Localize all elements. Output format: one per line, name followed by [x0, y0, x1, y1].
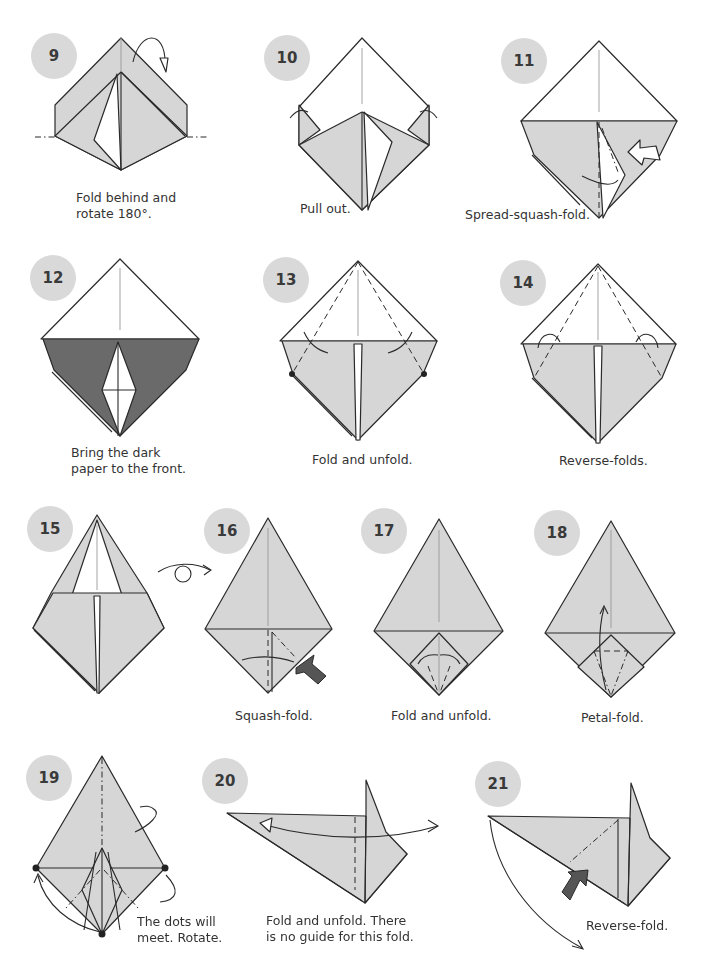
step-16: 16 Squash-fold. — [180, 500, 350, 730]
step-caption: Petal-fold. — [581, 710, 644, 726]
step-caption: Bring the dark paper to the front. — [71, 445, 186, 477]
step-caption: Fold behind and rotate 180°. — [76, 190, 176, 222]
step-20: 20 Fold and unfold. There is no guide fo… — [210, 740, 470, 973]
step-18-diagram — [520, 500, 704, 730]
step-caption: Fold and unfold. There is no guide for t… — [266, 913, 414, 945]
step-10-diagram — [240, 0, 470, 230]
step-11: 11 Spread-squash-fold. — [460, 0, 704, 230]
step-21: 21 Reverse-fold. — [470, 740, 704, 973]
step-caption: Fold and unfold. — [312, 452, 413, 468]
step-15: 15 — [0, 500, 180, 700]
rotate-arrow-bottom — [160, 875, 175, 902]
reference-dot — [162, 865, 169, 872]
step-caption: Pull out. — [300, 201, 351, 217]
step-15-diagram — [0, 500, 180, 700]
step-19: 19 The dots will meet. Rotate. — [0, 740, 220, 973]
step-17: 17 Fold and unfold. — [350, 500, 520, 730]
reference-dot — [289, 371, 295, 377]
step-12: 12 Bring the dark paper to the front. — [0, 240, 240, 490]
step-11-diagram — [460, 0, 704, 230]
step-caption: Squash-fold. — [235, 708, 313, 724]
step-14: 14 Reverse-folds. — [470, 240, 704, 490]
push-arrow-icon — [562, 870, 588, 900]
step-caption: Reverse-fold. — [586, 918, 668, 934]
reference-dot — [421, 371, 427, 377]
reference-dot — [33, 865, 40, 872]
step-13: 13 Fold and unfold. — [240, 240, 470, 490]
step-17-diagram — [350, 500, 520, 730]
step-caption: Spread-squash-fold. — [465, 207, 590, 223]
step-9: 9 Fold behind and rotate 180°. — [0, 0, 240, 230]
step-16-diagram — [180, 500, 350, 730]
step-18: 18 Petal-fold. — [520, 500, 704, 730]
step-caption: Fold and unfold. — [391, 708, 492, 724]
step-10: 10 Pull out. — [240, 0, 470, 230]
step-21-diagram — [470, 740, 704, 973]
step-caption: Reverse-folds. — [559, 453, 648, 469]
